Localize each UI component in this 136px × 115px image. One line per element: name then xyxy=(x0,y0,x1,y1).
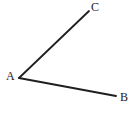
vertex-label-c: C xyxy=(91,1,99,13)
ray-ac-line xyxy=(19,11,89,78)
ray-ab-line xyxy=(19,78,116,96)
vertex-label-a: A xyxy=(6,70,15,82)
angle-diagram-canvas: A B C xyxy=(0,0,136,115)
angle-diagram-svg xyxy=(0,0,136,115)
vertex-label-b: B xyxy=(120,91,128,103)
